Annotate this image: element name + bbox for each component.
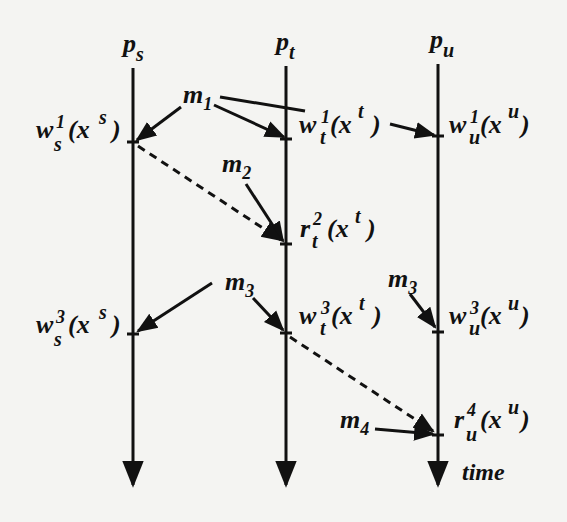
message-label-m3-left: m3 — [225, 267, 254, 301]
svg-text:(x: (x — [68, 310, 90, 339]
causal-consistency-diagram: ps pt pu m1 m2 m3 m3 m4 w 1 s (x — [0, 0, 567, 522]
svg-text:): ) — [110, 310, 121, 339]
svg-text:w: w — [36, 115, 54, 144]
process-label-pt: pt — [274, 27, 296, 63]
event-label-wu3: w 3 u (x u ) — [449, 292, 530, 339]
svg-text:r: r — [454, 405, 465, 434]
svg-text:s: s — [53, 328, 62, 350]
svg-text:3: 3 — [55, 307, 65, 327]
svg-text:(x: (x — [68, 115, 90, 144]
svg-text:s: s — [53, 133, 62, 155]
svg-text:1: 1 — [321, 107, 330, 127]
arrow-m2-to-rt2 — [246, 184, 283, 241]
svg-text:(x: (x — [480, 110, 502, 139]
event-label-wt1: w 1 t (x t ) — [299, 100, 381, 148]
event-label-ru4: r 4 u (x u ) — [454, 396, 530, 445]
svg-text:1: 1 — [470, 107, 479, 127]
svg-text:(x: (x — [327, 214, 349, 243]
svg-text:w: w — [299, 110, 317, 139]
event-label-wu1: w 1 u (x u ) — [449, 100, 530, 148]
message-label-m1: m1 — [183, 80, 212, 114]
svg-text:u: u — [466, 423, 477, 445]
dashed-wt3-to-ru4 — [290, 337, 433, 431]
svg-text:): ) — [365, 214, 376, 243]
svg-text:(x: (x — [331, 301, 353, 330]
svg-text:s: s — [98, 106, 107, 128]
message-label-m3-right: m3 — [388, 264, 417, 298]
event-label-wt3: w 3 t (x t ) — [299, 292, 382, 339]
svg-text:w: w — [299, 301, 317, 330]
svg-text:3: 3 — [320, 298, 330, 318]
svg-text:u: u — [469, 317, 480, 339]
svg-text:u: u — [469, 126, 480, 148]
event-label-rt2: r 2 t (x t ) — [300, 205, 376, 252]
svg-text:2: 2 — [312, 209, 322, 229]
svg-text:u: u — [508, 396, 519, 418]
event-label-ws1: w 1 s (x s ) — [36, 106, 121, 155]
arrow-m3-to-ws3 — [138, 283, 212, 331]
dashed-ws1-to-rt2 — [138, 146, 281, 240]
arrow-m3-to-wu3 — [410, 294, 435, 327]
svg-text:u: u — [508, 100, 519, 122]
arrow-to-wu1 — [390, 124, 434, 135]
svg-text:t: t — [358, 100, 365, 122]
svg-text:(x: (x — [480, 301, 502, 330]
svg-text:t: t — [320, 317, 327, 339]
svg-text:r: r — [300, 214, 311, 243]
message-label-m4: m4 — [340, 405, 369, 439]
arrow-m4-to-ru4 — [375, 429, 433, 434]
process-label-pu: pu — [428, 25, 454, 61]
event-label-ws3: w 3 s (x s ) — [36, 301, 121, 350]
arrow-m1-to-ws1 — [137, 107, 181, 140]
svg-text:): ) — [519, 405, 530, 434]
message-label-m2: m2 — [222, 149, 251, 183]
svg-text:): ) — [370, 110, 381, 139]
process-label-ps: ps — [121, 29, 144, 65]
svg-text:t: t — [312, 230, 319, 252]
arrow-m1-to-wt1 — [214, 105, 284, 137]
time-axis-label: time — [462, 459, 505, 485]
svg-text:t: t — [359, 292, 366, 314]
svg-text:t: t — [355, 205, 362, 227]
svg-text:): ) — [519, 301, 530, 330]
svg-text:(x: (x — [480, 405, 502, 434]
line-m1-to-pu — [220, 97, 305, 111]
svg-text:1: 1 — [56, 112, 65, 132]
svg-text:u: u — [508, 292, 519, 314]
svg-text:w: w — [449, 301, 467, 330]
svg-text:): ) — [519, 110, 530, 139]
svg-text:w: w — [36, 310, 54, 339]
svg-text:4: 4 — [466, 400, 476, 420]
svg-text:(x: (x — [330, 110, 352, 139]
svg-text:): ) — [371, 301, 382, 330]
arrow-m3-to-wt3 — [253, 298, 283, 330]
svg-text:): ) — [110, 115, 121, 144]
svg-text:w: w — [449, 110, 467, 139]
svg-text:3: 3 — [469, 298, 479, 318]
svg-text:t: t — [320, 126, 327, 148]
svg-text:s: s — [98, 301, 107, 323]
